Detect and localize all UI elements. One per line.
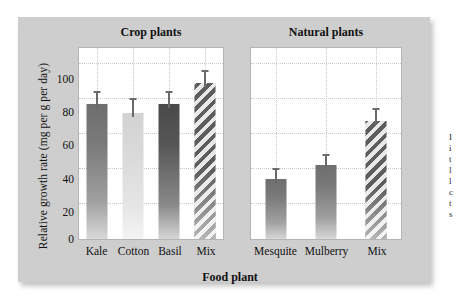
- panel-crop-plants: [78, 47, 224, 240]
- error-bar-cap: [202, 70, 209, 72]
- caption-line: I: [449, 132, 460, 143]
- caption-line: l: [449, 165, 460, 176]
- error-bar: [275, 170, 277, 183]
- error-bar: [204, 72, 206, 87]
- bar-slot: [115, 48, 151, 239]
- x-label-mulberry: Mulberry: [301, 245, 352, 257]
- page-caption-edge: I i t l l c t s: [449, 132, 460, 228]
- caption-line: c: [449, 187, 460, 198]
- panel-natural-plants: [250, 47, 402, 240]
- y-tick-80: 80: [44, 107, 74, 119]
- caption-line: i: [449, 143, 460, 154]
- y-axis-ticks: 100 80 60 40 20 0: [40, 0, 74, 304]
- x-label-mix-crop: Mix: [188, 245, 224, 257]
- bar-slot: [351, 48, 401, 239]
- x-label-basil: Basil: [152, 245, 188, 257]
- figure-container: Relative growth rate (mg per g per day) …: [0, 0, 460, 304]
- error-bar-cap: [273, 168, 280, 170]
- error-bar: [96, 93, 98, 108]
- bar-mix: [195, 83, 216, 239]
- x-label-mesquite: Mesquite: [250, 245, 301, 257]
- error-bar: [168, 93, 170, 108]
- x-label-cotton: Cotton: [115, 245, 152, 257]
- error-bar-cap: [130, 98, 137, 100]
- y-tick-100: 100: [44, 74, 74, 86]
- bar-slot: [301, 48, 351, 239]
- x-label-mix-natural: Mix: [352, 245, 402, 257]
- y-tick-40: 40: [44, 174, 74, 186]
- caption-line: t: [449, 198, 460, 209]
- bar-mesquite: [266, 179, 287, 239]
- caption-line: s: [449, 209, 460, 220]
- error-bar-cap: [166, 91, 173, 93]
- bar-mix: [366, 121, 387, 239]
- x-axis-title: Food plant: [60, 270, 400, 285]
- panel-title-natural-plants: Natural plants: [250, 25, 402, 40]
- error-bar: [375, 110, 377, 125]
- error-bar-cap: [323, 154, 330, 156]
- error-bar-cap: [94, 91, 101, 93]
- error-bar-cap: [373, 108, 380, 110]
- bar-slot: [79, 48, 115, 239]
- error-bar: [132, 100, 134, 117]
- y-tick-0: 0: [44, 234, 74, 246]
- bar-mulberry: [316, 165, 337, 239]
- x-label-kale: Kale: [78, 245, 115, 257]
- bars-natural: [251, 48, 401, 239]
- bars-crop: [79, 48, 223, 239]
- panel-title-crop-plants: Crop plants: [78, 25, 224, 40]
- bar-cotton: [123, 113, 144, 239]
- caption-line: t: [449, 154, 460, 165]
- y-tick-60: 60: [44, 140, 74, 152]
- y-tick-20: 20: [44, 207, 74, 219]
- bar-slot: [187, 48, 223, 239]
- caption-line: l: [449, 176, 460, 187]
- bar-slot: [251, 48, 301, 239]
- error-bar: [325, 156, 327, 169]
- bar-basil: [159, 104, 180, 239]
- bar-slot: [151, 48, 187, 239]
- bar-kale: [87, 104, 108, 239]
